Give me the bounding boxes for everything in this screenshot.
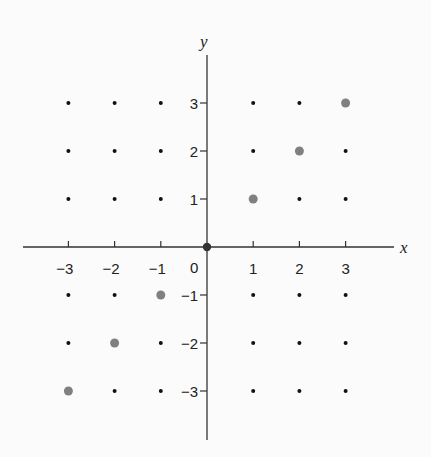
y-tick-label: 2 — [190, 143, 198, 160]
x-tick-label: −2 — [102, 260, 119, 277]
lattice-dot — [159, 389, 163, 393]
x-tick-label: 3 — [341, 260, 349, 277]
lattice-dot — [66, 197, 70, 201]
lattice-dot — [251, 101, 255, 105]
lattice-dot — [66, 341, 70, 345]
lattice-dot — [113, 389, 117, 393]
origin-label: 0 — [190, 259, 198, 276]
chart-canvas: −3−2−1123 321−1−2−3 x y 0 — [0, 0, 431, 457]
highlighted-point — [64, 387, 73, 396]
y-axis-label: y — [198, 32, 208, 51]
highlighted-point — [110, 339, 119, 348]
lattice-dot — [297, 341, 301, 345]
y-tick-label: 1 — [190, 191, 198, 208]
x-tick-label: 1 — [249, 260, 257, 277]
lattice-dot — [344, 197, 348, 201]
lattice-dot — [251, 389, 255, 393]
lattice-dot — [251, 293, 255, 297]
lattice-dot — [344, 389, 348, 393]
origin-point — [203, 243, 211, 251]
y-tick-label: −2 — [181, 335, 198, 352]
lattice-dot — [113, 101, 117, 105]
lattice-dot — [297, 293, 301, 297]
y-tick-label: −1 — [181, 287, 198, 304]
lattice-dot — [344, 149, 348, 153]
highlighted-point — [341, 99, 350, 108]
lattice-dot — [251, 149, 255, 153]
lattice-dot — [297, 389, 301, 393]
highlighted-point — [295, 147, 304, 156]
lattice-dot — [159, 101, 163, 105]
highlighted-point — [249, 195, 258, 204]
lattice-dot — [66, 101, 70, 105]
lattice-dot — [297, 197, 301, 201]
lattice-dot — [344, 341, 348, 345]
y-tick-label: −3 — [181, 383, 198, 400]
lattice-dot — [113, 197, 117, 201]
lattice-dot — [113, 293, 117, 297]
lattice-dot — [113, 149, 117, 153]
lattice-dot — [159, 341, 163, 345]
x-tick-label: 2 — [295, 260, 303, 277]
y-tick-label: 3 — [190, 95, 198, 112]
lattice-dot — [251, 341, 255, 345]
lattice-dot — [159, 149, 163, 153]
lattice-dot — [66, 149, 70, 153]
lattice-dot — [344, 293, 348, 297]
lattice-plot: −3−2−1123 321−1−2−3 x y 0 — [0, 0, 431, 457]
lattice-dot — [297, 101, 301, 105]
x-tick-label: −3 — [56, 260, 73, 277]
lattice-dot — [66, 293, 70, 297]
lattice-dot — [159, 197, 163, 201]
highlighted-point — [156, 291, 165, 300]
x-tick-label: −1 — [149, 260, 166, 277]
x-axis-label: x — [399, 238, 408, 257]
